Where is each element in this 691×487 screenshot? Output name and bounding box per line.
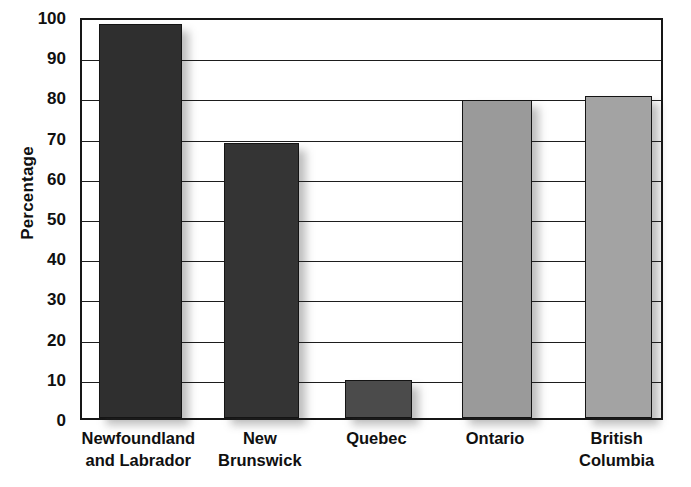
bar-column <box>99 24 182 418</box>
bar-chart: Percentage 0102030405060708090100 Newfou… <box>0 0 691 487</box>
y-axis-tick-label: 20 <box>6 331 66 348</box>
y-axis-tick-label: 50 <box>6 211 66 228</box>
y-axis-tick-label: 70 <box>6 130 66 147</box>
y-axis-tick-label: 90 <box>6 50 66 67</box>
bar-column <box>345 380 412 418</box>
y-axis-tick-label: 30 <box>6 291 66 308</box>
y-axis-tick-label: 80 <box>6 90 66 107</box>
y-axis-tick-label: 40 <box>6 251 66 268</box>
y-axis-tick-label: 10 <box>6 371 66 388</box>
y-axis-tick-label: 0 <box>6 412 66 429</box>
x-axis-tick-label-line: Columbia <box>527 450 691 472</box>
bar-column <box>224 143 299 418</box>
plot-area <box>80 18 663 420</box>
bar[interactable] <box>345 380 412 418</box>
x-axis-tick-label-line: Brunswick <box>170 450 350 472</box>
x-axis-tick-label: BritishColumbia <box>527 428 691 472</box>
bar[interactable] <box>224 143 299 418</box>
bar[interactable] <box>99 24 182 418</box>
y-axis-tick-label: 60 <box>6 170 66 187</box>
y-axis-tick-labels: 0102030405060708090100 <box>0 0 78 487</box>
y-axis-tick-label: 100 <box>6 10 66 27</box>
bar-column <box>462 100 532 418</box>
x-axis-tick-label-line: British <box>527 428 691 450</box>
bar[interactable] <box>462 100 532 418</box>
x-axis-tick-labels: Newfoundlandand LabradorNewBrunswickQueb… <box>0 428 691 487</box>
bar[interactable] <box>585 96 652 418</box>
bar-column <box>585 96 652 418</box>
